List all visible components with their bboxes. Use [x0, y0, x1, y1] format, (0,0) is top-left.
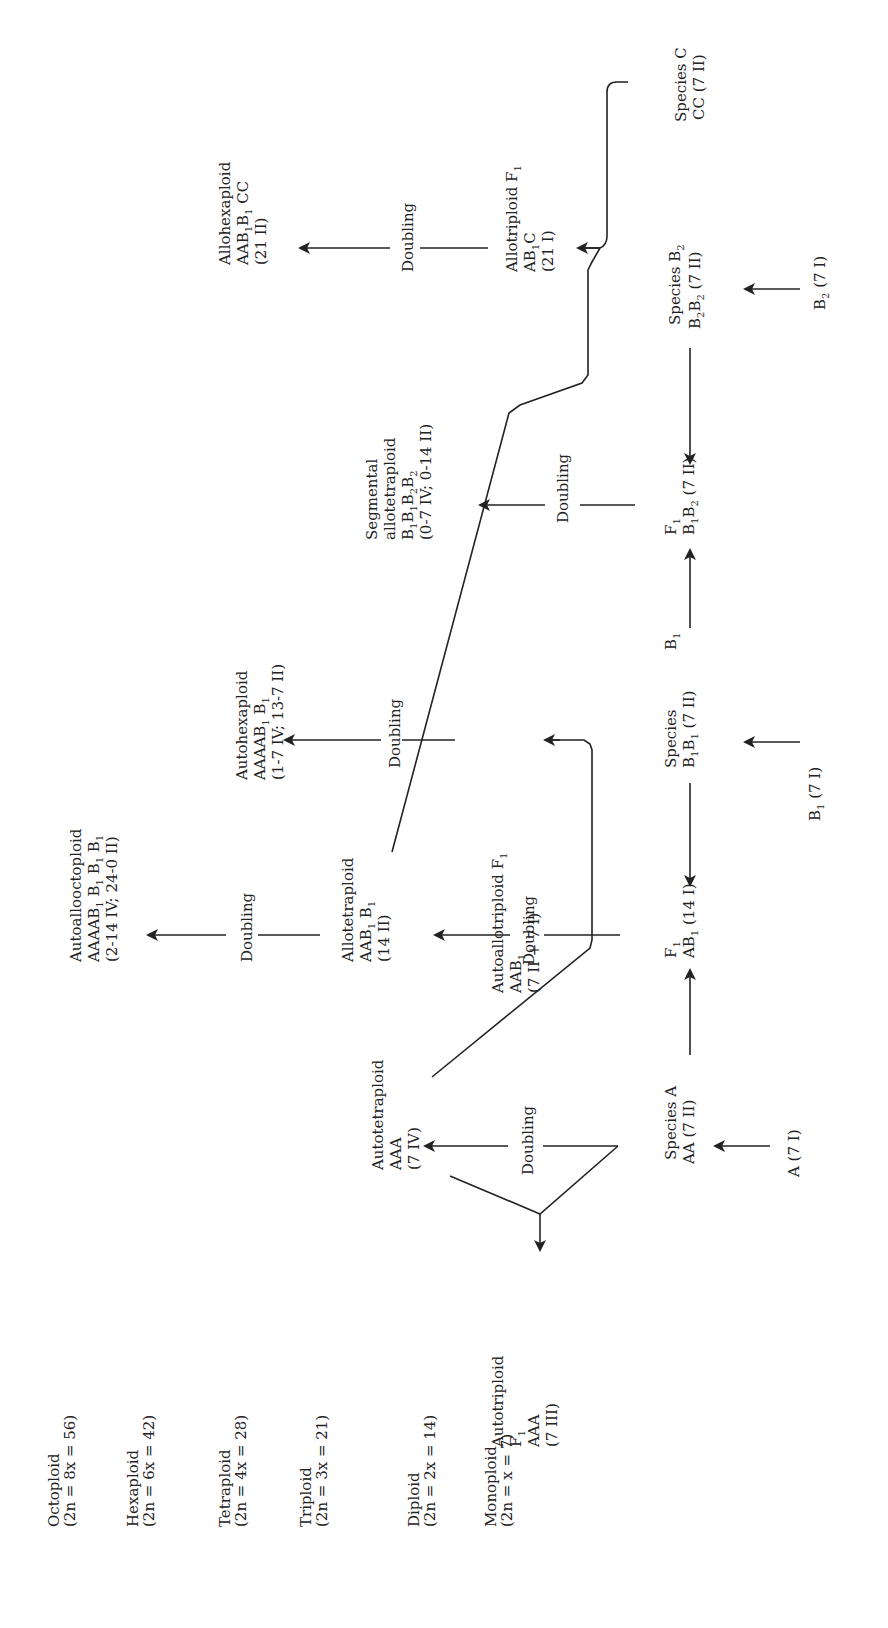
brace-species-c	[580, 82, 628, 248]
ploidy-octoploid-formula: (2n = 8x = 56)	[61, 1415, 79, 1527]
node-allotetraploid-line1: Allotetraploid	[339, 857, 357, 963]
node-segmental-line1: Segmental	[363, 459, 381, 540]
node-species-a-line2: AA (7 II)	[680, 1100, 698, 1165]
polyploidy-diagram: Octoploid (2n = 8x = 56) Hexaploid (2n =…	[0, 0, 888, 1628]
node-autotetraploid-line3: (7 IV)	[405, 1127, 423, 1170]
node-allotetraploid-line3: (14 II)	[375, 915, 393, 962]
ploidy-hexaploid-formula: (2n = 6x = 42)	[140, 1415, 158, 1527]
node-f1-ab1-line2: AB1 (14 I)	[680, 884, 700, 960]
node-f1-b1b2-line1: F1	[662, 518, 682, 535]
node-species-a-line1: Species A	[662, 1086, 680, 1160]
node-segmental-line2: allotetraploid	[381, 437, 399, 540]
node-autohexaploid-line1: Autohexaploid	[233, 670, 251, 781]
node-allotetraploid-line2: AAB1 B1	[357, 901, 377, 963]
node-autotriploid-line2: F1	[507, 1430, 527, 1447]
node-segmental-line4: (0-7 IV; 0-14 II)	[417, 424, 435, 540]
node-allohexaploid-line1: Allohexaploid	[216, 161, 234, 266]
node-autohexaploid-line2: AAAAB1 B1	[251, 697, 271, 781]
node-allohexaploid-line2: AAB1B1 CC	[234, 181, 254, 266]
node-autoallooctoploid-line1: Autoallooctoploid	[67, 828, 85, 963]
node-b2-monoploid: B2 (7 I)	[811, 256, 831, 310]
node-autohexaploid-line3: (1-7 IV; 13-7 II)	[269, 664, 287, 780]
node-segmental-line3: B1B1B2B2	[399, 470, 419, 540]
node-f1-ab1-line1: F1	[662, 941, 682, 958]
node-autoallooctoploid-line2: AAAAB1 B1 B1 B1	[85, 835, 105, 963]
node-autotriploid-line1: Autotriploid	[489, 1355, 507, 1448]
node-allotriploid-line2: AB1C	[521, 232, 541, 273]
node-allohexaploid-line3: (21 II)	[252, 218, 270, 265]
ploidy-diploid-formula: (2n = 2x = 14)	[421, 1415, 439, 1527]
node-allotriploid-line1: Allotriploid F1	[503, 165, 523, 273]
node-b1-monoploid: B1 (7 I)	[806, 767, 826, 821]
ploidy-labels: Octoploid (2n = 8x = 56) Hexaploid (2n =…	[45, 1415, 516, 1527]
label-doubling-allotet: Doubling	[238, 892, 256, 962]
label-doubling-b1b2: Doubling	[554, 453, 572, 523]
node-species-c-line2: CC (7 II)	[690, 54, 708, 120]
node-species-b2-line2: B2B2 (7 II)	[686, 252, 706, 329]
node-allotriploid-line3: (21 I)	[539, 231, 557, 272]
ploidy-triploid-formula: (2n = 3x = 21)	[313, 1415, 331, 1527]
node-species-b1-line1: Species	[662, 709, 680, 768]
line-autotet-to-autoallo	[432, 740, 592, 1077]
node-autotetraploid-line2: AAA	[387, 1137, 405, 1171]
label-doubling-autoallo: Doubling	[386, 698, 404, 768]
label-doubling-allotri: Doubling	[399, 202, 417, 272]
node-f1-b1b2-line2: B1B2 (7 II)	[680, 458, 700, 535]
node-species-b1-line2: B1B1 (7 II)	[680, 691, 700, 768]
node-autoallooctoploid-line3: (2-14 IV; 24-0 II)	[103, 836, 121, 962]
line-allotet-to-allotri	[392, 248, 600, 852]
label-doubling-a: Doubling	[519, 1105, 537, 1175]
node-species-c-line1: Species C	[672, 47, 690, 122]
label-doubling-f1: Doubling	[520, 895, 538, 965]
node-autotriploid-line3: AAA	[525, 1414, 543, 1448]
node-b1-label: B1	[662, 633, 682, 650]
node-a-monoploid: A (7 I)	[785, 1129, 803, 1178]
node-species-b2-line1: Species B2	[666, 244, 686, 325]
node-autotriploid-line4: (7 III)	[543, 1403, 561, 1447]
diagram-svg: Octoploid (2n = 8x = 56) Hexaploid (2n =…	[0, 0, 888, 1628]
node-autoallotriploid-line1: Autoallotriploid F1	[489, 853, 509, 995]
node-autotetraploid-line1: Autotetraploid	[369, 1059, 387, 1171]
ploidy-tetraploid-formula: (2n = 4x = 28)	[232, 1415, 250, 1527]
